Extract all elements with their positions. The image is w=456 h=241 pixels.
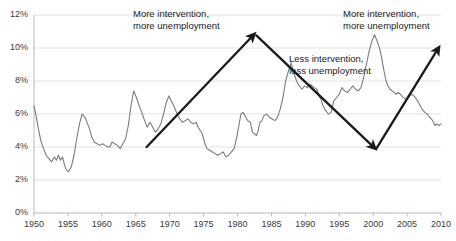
x-axis-tick-label: 1960 <box>87 219 117 229</box>
annotation-arrows <box>146 34 439 150</box>
x-axis-tick-label: 1985 <box>256 219 286 229</box>
x-axis-tick-label: 1965 <box>121 219 151 229</box>
annotation-middle-line1: Less intervention, <box>289 53 371 65</box>
annotation-left-line2: more unemployment <box>133 20 220 32</box>
annotation-left: More intervention, more unemployment <box>133 8 220 31</box>
x-axis-tick-label: 2005 <box>392 219 422 229</box>
annotation-left-line1: More intervention, <box>133 8 220 20</box>
x-axis-tick-label: 1995 <box>324 219 354 229</box>
x-axis-tick-label: 1955 <box>53 219 83 229</box>
annotation-right: More intervention, more unemployment <box>343 8 430 31</box>
annotation-right-line2: more unemployment <box>343 20 430 32</box>
y-axis-tick-label: 12% <box>2 9 28 19</box>
gridlines <box>34 15 441 213</box>
y-axis-tick-label: 10% <box>2 42 28 52</box>
x-tick-marks <box>34 213 441 217</box>
annotation-middle: Less intervention, less unemployment <box>289 53 371 76</box>
annotation-arrow <box>376 47 439 149</box>
y-axis-tick-label: 6% <box>2 108 28 118</box>
x-axis-tick-label: 1975 <box>189 219 219 229</box>
x-axis-tick-label: 1990 <box>290 219 320 229</box>
data-series-line <box>34 35 441 172</box>
annotation-middle-line2: less unemployment <box>289 65 371 77</box>
x-axis-tick-label: 2010 <box>426 219 456 229</box>
y-axis-tick-label: 0% <box>2 207 28 217</box>
y-axis-tick-label: 2% <box>2 174 28 184</box>
annotation-right-line1: More intervention, <box>343 8 430 20</box>
y-axis-tick-label: 8% <box>2 75 28 85</box>
annotation-arrow <box>256 35 375 149</box>
x-axis-tick-label: 1980 <box>223 219 253 229</box>
y-axis-tick-label: 4% <box>2 141 28 151</box>
x-axis-tick-label: 2000 <box>358 219 388 229</box>
x-axis-tick-label: 1970 <box>155 219 185 229</box>
x-axis-tick-label: 1950 <box>19 219 49 229</box>
